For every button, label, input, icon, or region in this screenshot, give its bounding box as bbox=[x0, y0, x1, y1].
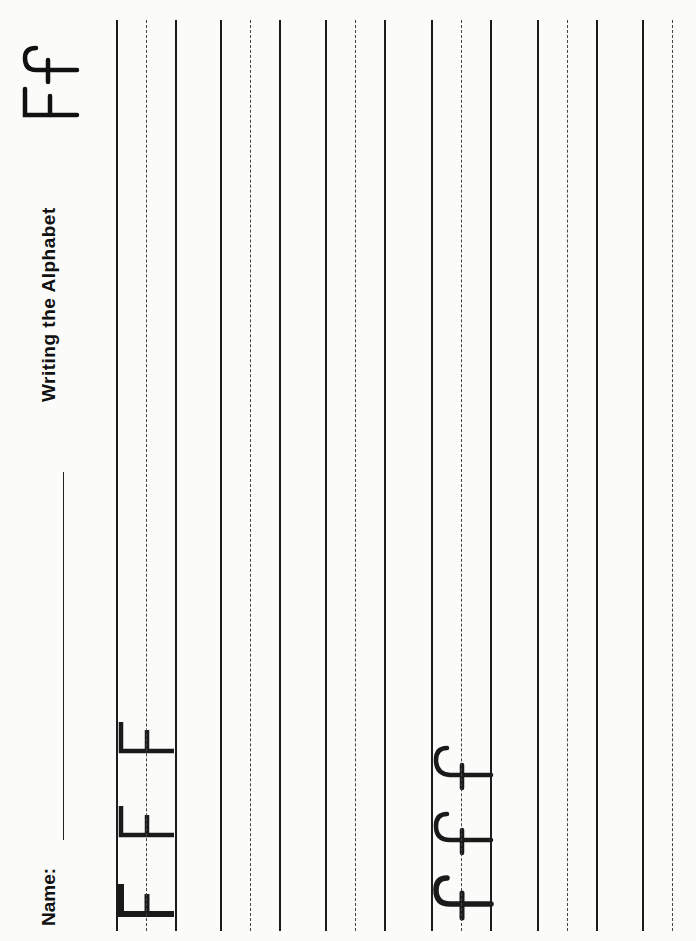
midline bbox=[146, 20, 147, 931]
header-lowercase-f-icon bbox=[25, 48, 77, 70]
midline bbox=[461, 20, 462, 931]
midline bbox=[567, 20, 568, 931]
baseline bbox=[220, 20, 222, 931]
name-field[interactable] bbox=[63, 472, 64, 840]
topline bbox=[596, 20, 598, 931]
traced-lowercase-f-group bbox=[436, 748, 491, 918]
worksheet-title: Writing the Alphabet bbox=[38, 207, 60, 402]
baseline bbox=[116, 20, 118, 931]
topline bbox=[175, 20, 177, 931]
midline bbox=[250, 20, 251, 931]
baseline bbox=[537, 20, 539, 931]
midline bbox=[355, 20, 356, 931]
worksheet-page: Writing the Alphabet Name: bbox=[0, 0, 696, 941]
topline bbox=[279, 20, 281, 931]
midline bbox=[672, 20, 673, 931]
traced-uppercase-f-group bbox=[121, 722, 174, 914]
baseline bbox=[642, 20, 644, 931]
baseline bbox=[431, 20, 433, 931]
topline bbox=[490, 20, 492, 931]
topline bbox=[384, 20, 386, 931]
baseline bbox=[325, 20, 327, 931]
name-label: Name: bbox=[38, 868, 60, 926]
letter-header-glyph bbox=[0, 0, 696, 941]
